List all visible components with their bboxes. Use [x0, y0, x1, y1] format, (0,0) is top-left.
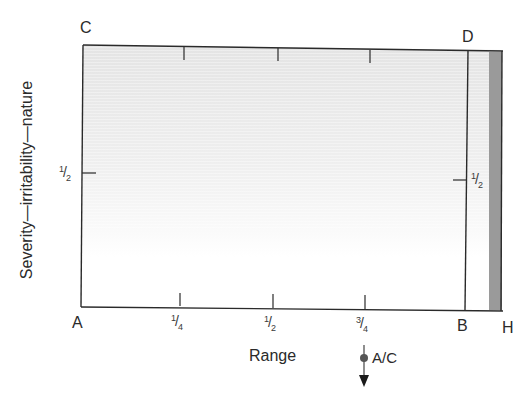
- end-strip: [489, 52, 502, 310]
- corner-label-d: D: [462, 29, 474, 45]
- x-axis-title: Range: [249, 347, 296, 365]
- shaded-region: [82, 45, 502, 310]
- corner-label-a: A: [72, 315, 83, 331]
- diagram-graphic: [0, 0, 525, 395]
- corner-label-h: H: [502, 320, 514, 336]
- corner-label-b: B: [457, 318, 468, 334]
- down-arrow-icon: [359, 375, 369, 387]
- y-tick-label-left-half: 1/2: [59, 165, 71, 179]
- y-axis-title-wrap: Severity—irritability—nature: [14, 60, 40, 300]
- ac-marker: [359, 345, 369, 387]
- x-tick-label-half: 1/2: [264, 315, 276, 329]
- movement-diagram: C D A B H 1/4 1/2 3/4 1/2 1/2 Range Seve…: [0, 0, 525, 395]
- corner-label-c: C: [80, 20, 92, 36]
- marker-dot-icon: [360, 354, 368, 362]
- y-axis-title: Severity—irritability—nature: [18, 81, 36, 279]
- x-tick-label-three-quarter: 3/4: [356, 316, 368, 330]
- marker-label: A/C: [372, 349, 397, 366]
- x-tick-label-quarter: 1/4: [171, 314, 183, 328]
- y-tick-label-right-half: 1/2: [471, 172, 483, 186]
